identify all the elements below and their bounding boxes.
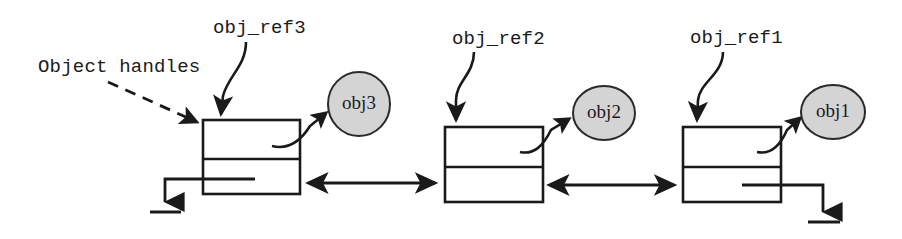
handle-box-3-frame [203, 120, 300, 194]
diagram-canvas: Object handles obj_ref3 obj_ref2 obj_ref… [0, 0, 902, 239]
obj-ref2-label: obj_ref2 [452, 28, 545, 50]
object-handles-label: Object handles [38, 56, 200, 78]
handle-box-2 [445, 127, 543, 202]
obj-ref3-pointer [221, 42, 246, 114]
obj-ref1-pointer [697, 52, 723, 120]
object-handles-diagram: Object handles obj_ref3 obj_ref2 obj_ref… [0, 0, 902, 239]
obj1-label: obj1 [816, 100, 850, 121]
handle-box-1 [683, 127, 781, 202]
handle-box-2-frame [445, 127, 543, 202]
object-node-obj2: obj2 [573, 86, 635, 140]
obj3-label: obj3 [342, 92, 376, 113]
obj2-label: obj2 [587, 101, 621, 122]
obj-ref1-label: obj_ref1 [690, 27, 783, 49]
object-handles-pointer [108, 82, 197, 122]
obj-ref2-pointer [456, 52, 474, 120]
handle-box-1-frame [683, 127, 781, 202]
object-node-obj1: obj1 [801, 85, 865, 139]
handle-box-3 [203, 120, 300, 194]
obj-ref3-label: obj_ref3 [213, 17, 306, 39]
object-node-obj3: obj3 [328, 72, 390, 136]
